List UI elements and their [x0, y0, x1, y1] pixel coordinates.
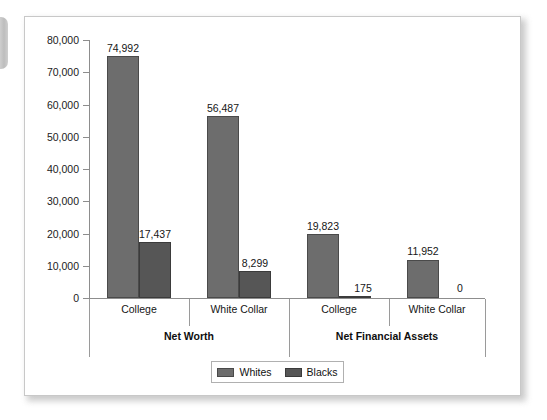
bar-net-worth-white-collar-blacks: [239, 271, 271, 298]
bar-net-worth-white-collar-whites: [207, 116, 239, 298]
y-tick-label-60000: 60,000: [25, 99, 79, 111]
page-edge-tab: [0, 17, 8, 69]
value-net-financial-assets-white-collar-blacks: 0: [445, 282, 475, 294]
category-label-net-worth-college: College: [89, 303, 189, 315]
x-axis-line: [89, 298, 485, 299]
bar-net-worth-college-whites: [107, 56, 139, 298]
y-tick-label-40000: 40,000: [25, 163, 79, 175]
value-net-worth-white-collar-whites: 56,487: [191, 102, 255, 114]
category-label-nfa-college: College: [289, 303, 389, 315]
chart-legend: Whites Blacks: [211, 361, 344, 383]
bar-net-worth-college-blacks: [139, 242, 171, 298]
y-tick-mark-10000: [83, 266, 89, 267]
legend-item-whites: Whites: [217, 366, 271, 378]
legend-swatch-whites-icon: [217, 368, 234, 377]
y-tick-mark-40000: [83, 169, 89, 170]
y-tick-label-0: 0: [25, 292, 79, 304]
figure-card: 0 10,000 20,000 30,000 40,000 50,000 60,…: [24, 16, 521, 396]
y-tick-label-50000: 50,000: [25, 131, 79, 143]
value-net-worth-white-collar-blacks: 8,299: [225, 257, 285, 269]
y-tick-label-80000: 80,000: [25, 34, 79, 46]
y-tick-mark-50000: [83, 137, 89, 138]
value-net-worth-college-blacks: 17,437: [123, 228, 187, 240]
legend-swatch-blacks-icon: [285, 368, 302, 377]
y-tick-mark-20000: [83, 234, 89, 235]
group-label-net-worth: Net Worth: [89, 330, 289, 342]
legend-item-blacks: Blacks: [285, 366, 338, 378]
value-net-worth-college-whites: 74,992: [91, 42, 155, 54]
bar-net-financial-assets-white-collar-whites: [407, 260, 439, 299]
bar-net-financial-assets-college-whites: [307, 234, 339, 298]
y-tick-mark-60000: [83, 105, 89, 106]
bar-net-financial-assets-college-blacks: [339, 296, 371, 298]
y-tick-label-30000: 30,000: [25, 195, 79, 207]
y-tick-mark-30000: [83, 201, 89, 202]
value-net-financial-assets-white-collar-whites: 11,952: [391, 245, 455, 257]
category-label-nfa-white-collar: White Collar: [389, 303, 485, 315]
y-tick-mark-80000: [83, 40, 89, 41]
legend-label-whites: Whites: [239, 366, 271, 378]
y-tick-mark-70000: [83, 72, 89, 73]
value-net-financial-assets-college-whites: 19,823: [291, 220, 355, 232]
y-tick-label-20000: 20,000: [25, 228, 79, 240]
category-separator-right-edge: [485, 299, 486, 357]
group-label-net-financial-assets: Net Financial Assets: [289, 330, 485, 342]
y-axis-line: [89, 40, 90, 298]
figure-page: 0 10,000 20,000 30,000 40,000 50,000 60,…: [0, 0, 547, 420]
y-tick-label-70000: 70,000: [25, 66, 79, 78]
bar-chart-plot: 0 10,000 20,000 30,000 40,000 50,000 60,…: [25, 17, 522, 397]
category-label-net-worth-white-collar: White Collar: [189, 303, 289, 315]
y-tick-label-10000: 10,000: [25, 260, 79, 272]
legend-label-blacks: Blacks: [307, 366, 338, 378]
value-net-financial-assets-college-blacks: 175: [343, 282, 383, 294]
